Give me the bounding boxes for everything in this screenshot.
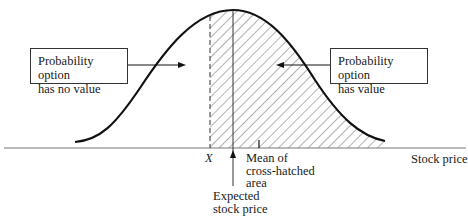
no-value-box: Probability option has no value [30, 48, 128, 84]
strike-label: X [205, 152, 213, 165]
mean-label-line3: area [246, 177, 315, 190]
mean-label-line1: Mean of [246, 152, 315, 165]
no-value-line1: Probability option [38, 54, 120, 82]
has-value-box: Probability option has value [330, 48, 428, 84]
expected-label-line2: stock price [213, 203, 268, 216]
expected-price-arrowhead [230, 150, 236, 158]
expected-label: Expected stock price [213, 190, 268, 215]
left-arrowhead [178, 62, 186, 68]
mean-label: Mean of cross-hatched area [246, 152, 315, 190]
has-value-line2: has value [338, 82, 420, 96]
has-value-line1: Probability option [338, 54, 420, 82]
axis-label: Stock price [411, 153, 468, 166]
no-value-line2: has no value [38, 82, 120, 96]
expected-label-line1: Expected [213, 190, 268, 203]
